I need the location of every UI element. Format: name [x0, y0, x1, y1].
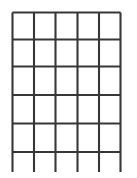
figure-canvas: [0, 0, 137, 178]
grid-lattice-drawing: [0, 0, 137, 178]
